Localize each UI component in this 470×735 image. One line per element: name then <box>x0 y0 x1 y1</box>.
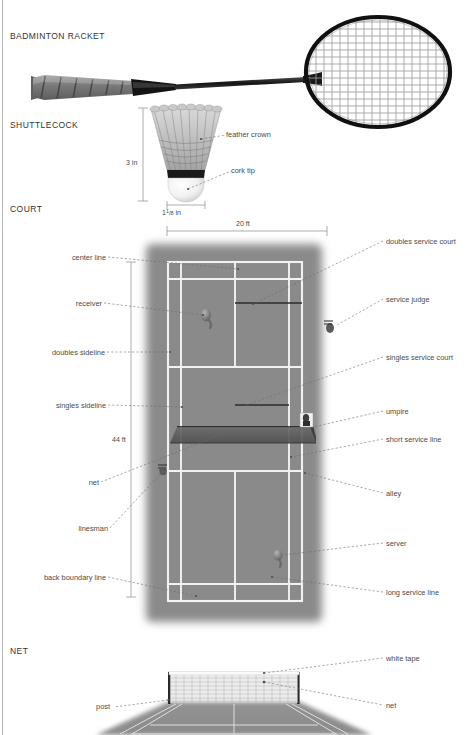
court-width-dimension <box>167 226 327 236</box>
net-mesh <box>170 674 298 703</box>
label-receiver: receiver <box>0 299 102 308</box>
shuttlecock-height-label: 3 in <box>126 159 137 166</box>
shuttlecock-illustration <box>0 100 470 220</box>
net-illustration <box>0 630 470 735</box>
court-illustration <box>0 215 470 635</box>
shuttlecock-height-dimension <box>138 108 148 201</box>
label-singles-service-court: singles service court <box>386 353 453 362</box>
racket-shaft <box>175 77 306 90</box>
label-alley: alley <box>386 489 401 498</box>
label-server: server <box>386 539 407 548</box>
court-length-label: 44 ft <box>112 436 126 443</box>
label-feather-crown: feather crown <box>226 130 271 139</box>
label-net-view: net <box>386 701 396 710</box>
label-linesman: linesman <box>0 524 108 533</box>
label-back-boundary-line: back boundary line <box>0 573 106 582</box>
service-judge-figure <box>324 321 334 333</box>
court-width-label: 20 ft <box>236 220 250 227</box>
label-short-service-line: short service line <box>386 435 441 444</box>
label-post: post <box>0 702 110 711</box>
leader-dot-cork-tip <box>187 188 189 190</box>
net-white-tape <box>169 672 299 675</box>
label-center-line: center line <box>0 253 106 262</box>
umpire-figure <box>300 413 313 427</box>
leader-dot-feather-crown <box>200 138 202 140</box>
shuttlecock-feather-crown <box>150 104 222 172</box>
label-service-judge: service judge <box>386 295 430 304</box>
shuttlecock-band <box>167 170 205 178</box>
label-cork-tip: cork tip <box>231 166 255 175</box>
label-umpire: umpire <box>386 407 409 416</box>
label-singles-sideline: singles sideline <box>0 401 106 410</box>
court-net <box>170 425 316 443</box>
badminton-infographic: BADMINTON RACKET SHUTTLECOCK COURT NET <box>0 0 470 735</box>
label-doubles-service-court: doubles service court <box>386 237 456 246</box>
label-doubles-sideline: doubles sideline <box>0 348 105 357</box>
label-net: net <box>0 478 99 487</box>
label-white-tape: white tape <box>386 654 420 663</box>
shuttlecock-cork-tip <box>168 178 204 202</box>
label-long-service-line: long service line <box>386 588 439 597</box>
court-length-dimension <box>126 262 136 597</box>
